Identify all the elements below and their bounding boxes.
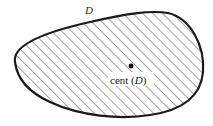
region-label: D: [84, 4, 93, 16]
region-d: [0, 0, 213, 126]
centroid-diagram: D cent (D): [0, 0, 213, 126]
centroid-label: cent (D): [110, 74, 147, 87]
centroid-point: [129, 64, 134, 69]
